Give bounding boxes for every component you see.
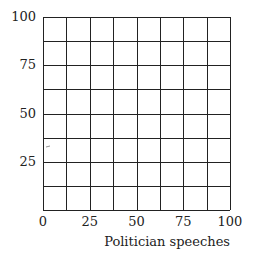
chart: 255075100 0255075100 Politician speeches — [0, 0, 256, 260]
x-axis-label: Politician speeches — [104, 234, 230, 249]
x-tick-label: 0 — [39, 214, 47, 229]
x-tick-label: 100 — [218, 214, 243, 229]
y-tick-label: 100 — [11, 9, 36, 24]
y-axis-ticks: 255075100 — [11, 9, 36, 169]
y-tick-label: 25 — [19, 154, 36, 169]
x-tick-label: 75 — [175, 214, 192, 229]
stray-mark — [46, 146, 50, 147]
x-tick-label: 25 — [81, 214, 98, 229]
grid — [43, 17, 231, 211]
y-tick-label: 50 — [19, 106, 36, 121]
y-tick-label: 75 — [19, 57, 36, 72]
x-axis-ticks: 0255075100 — [39, 214, 243, 229]
x-tick-label: 50 — [128, 214, 145, 229]
